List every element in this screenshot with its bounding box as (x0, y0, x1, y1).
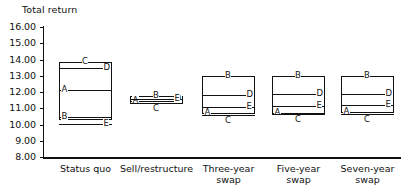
y-axis-line (43, 26, 44, 158)
series-label-e: E (174, 94, 180, 103)
y-axis-title: Total return (22, 4, 77, 15)
series-label-e: E (103, 119, 109, 128)
y-axis-tick-label: 13.00 (2, 70, 36, 81)
series-label-a: A (61, 85, 68, 94)
series-label-c: C (153, 104, 160, 113)
series-label-b: B (295, 71, 302, 80)
series-label-d: D (316, 89, 324, 98)
series-label-e: E (316, 101, 322, 110)
series-label-c: C (295, 115, 302, 124)
series-label-e: E (385, 100, 391, 109)
y-axis-tick-label: 12.00 (2, 86, 36, 97)
series-label-b: B (153, 91, 160, 100)
y-axis-tick-label: 16.00 (2, 21, 36, 32)
series-label-c: C (82, 57, 89, 66)
series-label-d: D (385, 89, 393, 98)
series-label-d: D (103, 63, 111, 72)
series-label-d: D (246, 90, 254, 99)
y-axis-tick-label: 14.00 (2, 54, 36, 65)
series-label-b: B (61, 112, 68, 121)
series-label-c: C (364, 115, 371, 124)
chart-canvas: Total return 16.0015.0014.0013.0012.0011… (0, 0, 404, 190)
series-label-e: E (246, 102, 252, 111)
y-axis-tick-label: 11.00 (2, 102, 36, 113)
y-axis-tick-label: 10.00 (2, 119, 36, 130)
series-label-b: B (225, 71, 232, 80)
y-axis-tick-label: 15.00 (2, 37, 36, 48)
x-axis-label: Seven-year swap (323, 163, 404, 185)
x-axis-line (43, 157, 401, 159)
series-label-c: C (225, 116, 232, 125)
series-label-b: B (364, 71, 371, 80)
y-axis-tick-label: 9.00 (2, 135, 36, 146)
y-axis-tick-label: 8.00 (2, 151, 36, 162)
